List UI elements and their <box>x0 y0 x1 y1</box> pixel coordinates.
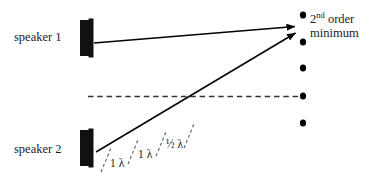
order-minimum-ordinal: nd <box>316 10 325 20</box>
tick-mark-2 <box>156 132 166 156</box>
interference-diagram-figure: speaker 1 speaker 2 2nd order minimum 1 … <box>0 0 376 182</box>
speaker-1-label: speaker 1 <box>14 30 62 44</box>
detector-dot <box>300 92 306 99</box>
speaker-1-icon <box>80 19 94 58</box>
path-difference-label-2: ½ λ <box>166 138 183 151</box>
ray-from-speaker-2 <box>96 33 296 152</box>
speaker-2-icon <box>80 129 94 168</box>
tick-mark-3 <box>184 124 194 148</box>
speaker-2-label: speaker 2 <box>14 142 62 156</box>
order-minimum-line2: minimum <box>310 26 359 40</box>
path-difference-label-0: 1 λ <box>110 157 124 170</box>
ray-from-speaker-1 <box>94 27 295 44</box>
detector-dot <box>300 119 306 126</box>
detector-dot <box>300 11 306 18</box>
detector-dot-column <box>300 11 306 126</box>
detector-dot <box>300 38 306 45</box>
path-difference-label-1: 1 λ <box>138 148 152 161</box>
order-minimum-word: order <box>328 12 354 26</box>
order-minimum-label: 2nd order minimum <box>310 12 359 41</box>
detector-dot <box>300 64 306 71</box>
tick-mark-1 <box>128 140 138 164</box>
